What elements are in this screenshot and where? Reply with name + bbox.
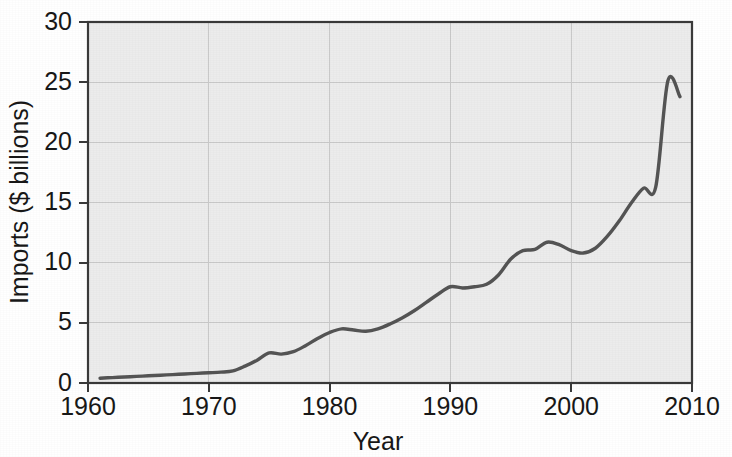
y-tick-label: 25 <box>44 67 72 95</box>
y-axis-tick-labels: 051015202530 <box>44 7 72 396</box>
chart-figure: 051015202530 196019701980199020002010 Ye… <box>0 0 732 457</box>
x-axis-title: Year <box>353 427 404 455</box>
x-axis-tick-labels: 196019701980199020002010 <box>60 392 720 420</box>
line-chart: 051015202530 196019701980199020002010 Ye… <box>0 0 732 457</box>
y-tick-label: 5 <box>58 307 72 335</box>
y-tick-label: 20 <box>44 127 72 155</box>
y-axis-ticks <box>79 22 88 383</box>
x-tick-label: 1960 <box>60 392 116 420</box>
x-tick-label: 2000 <box>543 392 599 420</box>
x-tick-label: 1990 <box>423 392 479 420</box>
y-tick-label: 30 <box>44 7 72 35</box>
x-tick-label: 2010 <box>664 392 720 420</box>
y-tick-label: 15 <box>44 187 72 215</box>
x-axis-ticks <box>88 383 692 392</box>
y-axis-title: Imports ($ billions) <box>5 100 33 304</box>
x-tick-label: 1970 <box>181 392 237 420</box>
y-tick-label: 10 <box>44 247 72 275</box>
x-tick-label: 1980 <box>302 392 358 420</box>
y-tick-label: 0 <box>58 368 72 396</box>
